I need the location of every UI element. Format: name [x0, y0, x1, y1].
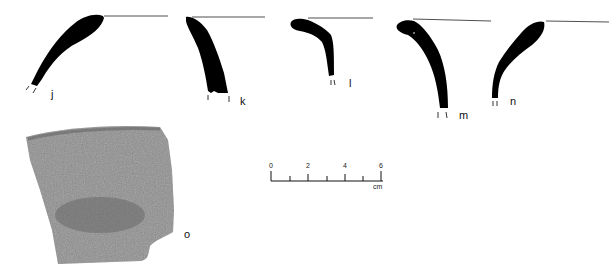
- label-m: m: [459, 109, 468, 121]
- label-o: o: [184, 228, 190, 240]
- label-k: k: [240, 95, 246, 107]
- scale-tick-2: 2: [306, 162, 310, 169]
- sherd-photo-o: [26, 126, 174, 264]
- scale-bar: [271, 171, 383, 181]
- scale-tick-4: 4: [343, 162, 347, 169]
- scale-tick-0: 0: [269, 162, 273, 169]
- label-j: j: [51, 88, 53, 100]
- scale-unit: cm: [373, 183, 382, 190]
- label-l: l: [349, 77, 351, 89]
- figure-canvas: [0, 0, 614, 275]
- label-n: n: [510, 95, 516, 107]
- profile-k: [186, 17, 265, 102]
- profile-l: [290, 18, 373, 85]
- profile-n: [492, 21, 609, 106]
- profile-m: [397, 19, 491, 118]
- profile-j: [26, 15, 168, 93]
- scale-tick-6: 6: [379, 162, 383, 169]
